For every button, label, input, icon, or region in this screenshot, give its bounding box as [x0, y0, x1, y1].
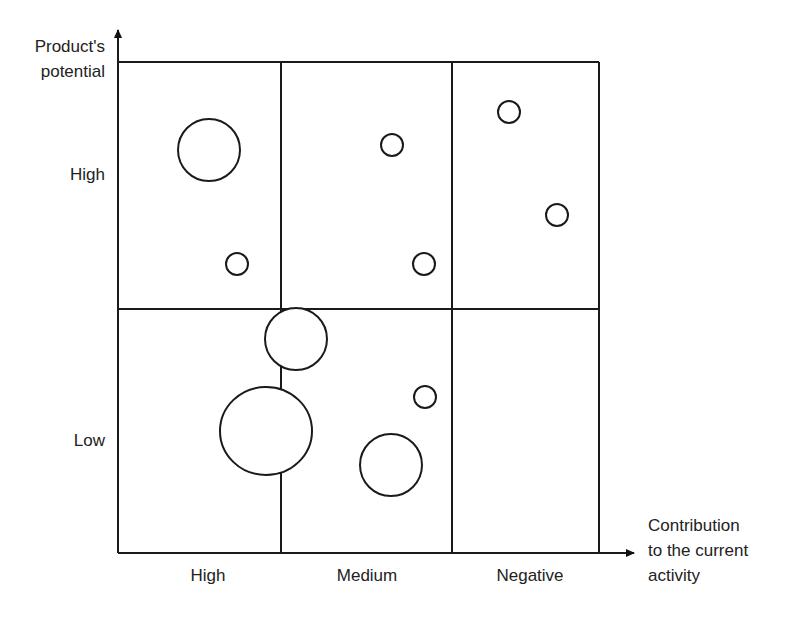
- bubble: [360, 434, 422, 496]
- bubble: [414, 386, 436, 408]
- y-level-low: Low: [10, 430, 105, 452]
- x-level-high: High: [191, 565, 226, 587]
- y-level-high: High: [10, 164, 105, 186]
- bubble: [265, 308, 327, 370]
- bubble: [498, 101, 520, 123]
- bubble: [226, 253, 248, 275]
- bubble: [220, 387, 312, 475]
- y-axis-title-line1: Product's: [10, 36, 105, 58]
- bubble: [178, 119, 240, 181]
- x-axis-title-line1: Contribution: [648, 515, 740, 537]
- y-axis-title-line2: potential: [10, 61, 105, 83]
- x-level-medium: Medium: [337, 565, 397, 587]
- bubble: [546, 204, 568, 226]
- x-axis-title-line3: activity: [648, 565, 700, 587]
- x-level-negative: Negative: [496, 565, 563, 587]
- x-axis-title-line2: to the current: [648, 540, 748, 562]
- bubble: [381, 134, 403, 156]
- bubble: [413, 253, 435, 275]
